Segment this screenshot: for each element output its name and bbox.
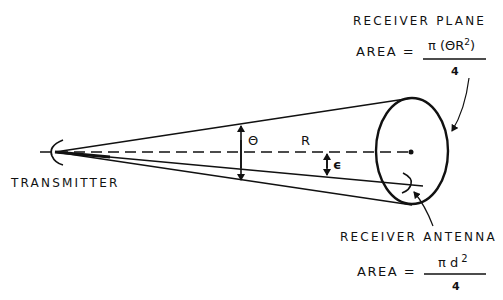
receiver-plane-area-lhs: AREA = — [356, 45, 415, 58]
receiver-plane-leader-arrow — [452, 78, 469, 131]
receiver-antenna-area-numerator: π d2 — [438, 254, 468, 269]
receiver-antenna-area-lhs: AREA = — [357, 265, 416, 278]
receiver-antenna-area-denominator: 4 — [452, 281, 460, 292]
beam-upper-edge — [55, 98, 412, 152]
receiver-plane-area-denominator: 4 — [451, 66, 459, 77]
receiver-plane-label: RECEIVER PLANE — [353, 15, 486, 27]
theta-label: Θ — [248, 134, 258, 147]
receiver-antenna-label: RECEIVER ANTENNA — [340, 231, 497, 243]
receiver-antenna-dish-icon — [402, 173, 411, 193]
transmitter-label: TRANSMITTER — [11, 177, 119, 189]
epsilon-label: ϵ — [333, 158, 341, 171]
receiver-center-dot — [409, 150, 414, 155]
range-label: R — [301, 134, 310, 147]
receiver-plane-area-numerator: π (ΘR2) — [428, 38, 475, 52]
